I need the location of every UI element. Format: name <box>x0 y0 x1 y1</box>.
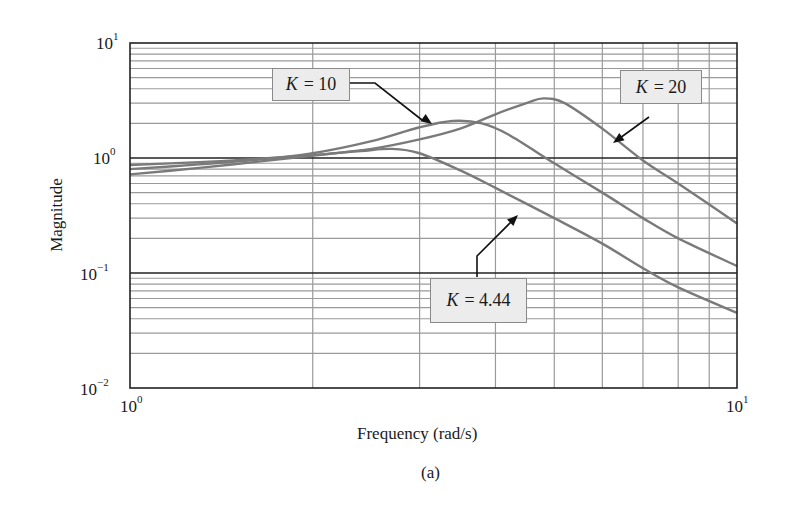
y-tick-10-minus2: 10−2 <box>80 378 109 400</box>
y-tick-10-0: 100 <box>93 147 116 169</box>
annotation-k444: K= 4.44 <box>430 278 527 323</box>
y-tick-10-minus1: 10−1 <box>80 263 109 285</box>
arrow-k20 <box>620 117 649 138</box>
y-tick-10-1: 101 <box>96 32 119 54</box>
y-axis-label: Magnitude <box>47 175 67 255</box>
curve-K10 <box>130 121 737 266</box>
x-axis-label: Frequency (rad/s) <box>357 424 477 444</box>
x-tick-10-1: 101 <box>726 395 749 417</box>
arrowhead-icon <box>420 114 432 124</box>
figure-caption: (a) <box>421 463 440 483</box>
arrow-k444 <box>477 222 511 277</box>
x-tick-10-0: 100 <box>120 395 143 417</box>
annotation-k10: K= 10 <box>272 68 350 101</box>
annotation-k20: K= 20 <box>620 70 702 104</box>
